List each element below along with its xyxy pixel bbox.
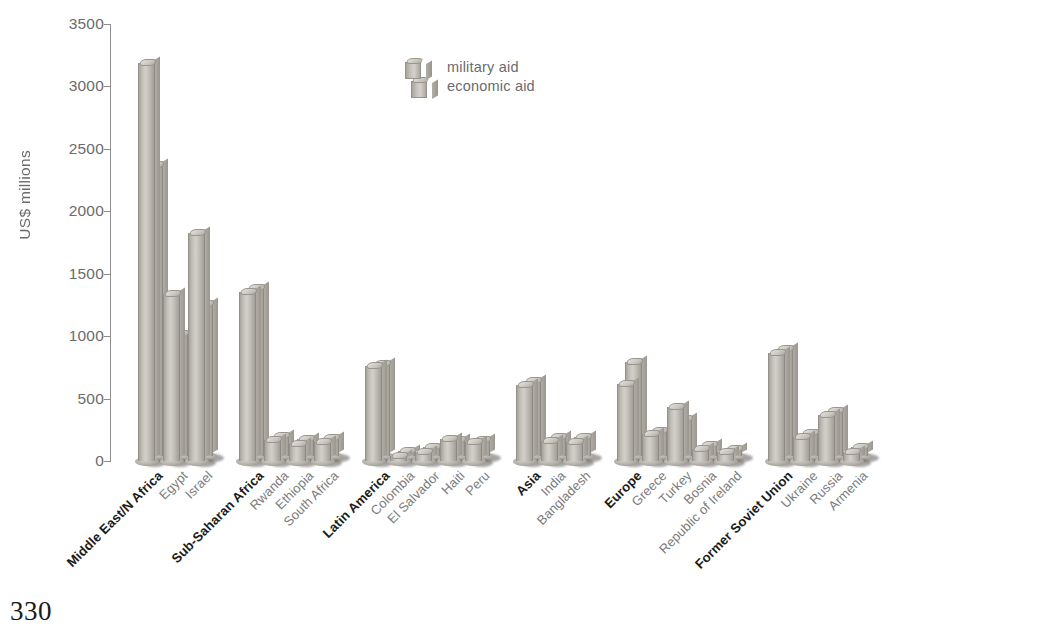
y-axis-tick-label: 500	[58, 390, 104, 408]
legend-swatch-side	[432, 80, 438, 99]
y-axis-tick-label: 1500	[58, 265, 104, 283]
bar-face	[239, 292, 256, 461]
legend-swatch-economic	[411, 77, 433, 99]
x-axis-label: Asia	[513, 468, 544, 499]
bar-face	[188, 233, 205, 461]
bar-face	[264, 440, 281, 461]
x-axis-label: Israel	[182, 468, 216, 502]
bar-military	[440, 439, 457, 461]
bar-face	[768, 353, 785, 461]
bar-military	[541, 441, 558, 461]
bar-military	[818, 415, 835, 461]
x-axis-label: Haiti	[438, 468, 467, 497]
bar-face	[818, 415, 835, 461]
bar-face	[617, 384, 634, 461]
bar-military	[239, 292, 256, 461]
bar-military	[289, 444, 306, 461]
bar-military	[516, 385, 533, 461]
chart-page: 0500100015002000250030003500 US$ million…	[0, 0, 1061, 635]
bar-military	[163, 294, 180, 461]
bar-military	[365, 366, 382, 461]
legend-label-military: military aid	[447, 59, 519, 75]
bar-face	[314, 442, 331, 461]
legend-label-economic: economic aid	[447, 78, 535, 94]
page-number: 330	[10, 596, 52, 627]
y-axis-tick-label: 3000	[58, 77, 104, 95]
x-axis-label: Peru	[462, 468, 492, 498]
bar-military	[314, 442, 331, 461]
bar-military	[138, 63, 155, 461]
bar-face	[138, 63, 155, 461]
y-axis-tick	[104, 461, 111, 462]
y-axis-tick-label: 1000	[58, 327, 104, 345]
bar-military	[188, 233, 205, 461]
bar-military	[692, 449, 709, 461]
y-axis-tick-label: 0	[58, 452, 104, 470]
bar-face	[163, 294, 180, 461]
bar-military	[667, 407, 684, 461]
bar-military	[566, 442, 583, 461]
chart-legend: military aideconomic aid	[405, 58, 635, 120]
legend-swatch-military	[405, 58, 427, 80]
bar-military	[390, 456, 407, 461]
bar-military	[264, 440, 281, 461]
bar-military	[768, 353, 785, 461]
y-axis-tick-label: 2000	[58, 202, 104, 220]
bar-military	[717, 452, 734, 461]
bar-face	[440, 439, 457, 461]
bar-face	[642, 434, 659, 461]
y-axis-tick-label: 2500	[58, 140, 104, 158]
bar-military	[642, 434, 659, 461]
bar-face	[541, 441, 558, 461]
bar-face	[667, 407, 684, 461]
bar-military	[415, 452, 432, 461]
bar-military	[617, 384, 634, 461]
bar-face	[793, 437, 810, 461]
y-axis-title: US$ millions	[16, 150, 34, 240]
x-axis-label: Middle East/N Africa	[63, 468, 165, 570]
legend-swatch-face	[405, 62, 421, 79]
bar-face	[365, 366, 382, 461]
bar-military	[843, 452, 860, 461]
legend-swatch-face	[411, 81, 427, 98]
bar-military	[465, 442, 482, 461]
bar-face	[516, 385, 533, 461]
bar-military	[793, 437, 810, 461]
bar-face	[465, 442, 482, 461]
y-axis-tick-label: 3500	[58, 15, 104, 33]
